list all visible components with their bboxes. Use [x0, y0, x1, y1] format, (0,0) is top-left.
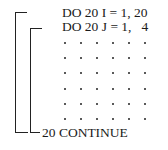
ellipsis-dot [80, 72, 82, 74]
outer-loop-bracket-bottom [15, 132, 28, 133]
ellipsis-dot [144, 72, 146, 74]
ellipsis-dot [96, 88, 98, 90]
ellipsis-dot [112, 57, 114, 59]
ellipsis-dot [128, 42, 130, 44]
ellipsis-dot [144, 57, 146, 59]
ellipsis-dot [144, 118, 146, 120]
ellipsis-dot [128, 118, 130, 120]
ellipsis-dot [128, 103, 130, 105]
ellipsis-dot [64, 57, 66, 59]
ellipsis-dot [128, 72, 130, 74]
ellipsis-dot [64, 118, 66, 120]
outer-loop-bracket [15, 12, 27, 133]
ellipsis-dot [112, 88, 114, 90]
ellipsis-dot [112, 72, 114, 74]
continue-statement: 20 CONTINUE [42, 126, 128, 140]
ellipsis-dot [112, 42, 114, 44]
ellipsis-dot [80, 42, 82, 44]
ellipsis-dot [96, 72, 98, 74]
ellipsis-dot [112, 103, 114, 105]
ellipsis-dot [96, 118, 98, 120]
ellipsis-dot [64, 88, 66, 90]
ellipsis-dot [80, 88, 82, 90]
ellipsis-dot [64, 42, 66, 44]
ellipsis-dot [80, 57, 82, 59]
ellipsis-dot [80, 118, 82, 120]
ellipsis-dot [64, 72, 66, 74]
ellipsis-dot [144, 88, 146, 90]
ellipsis-dot [96, 103, 98, 105]
ellipsis-dot [128, 88, 130, 90]
ellipsis-dot [144, 42, 146, 44]
ellipsis-dot [112, 118, 114, 120]
inner-loop-bracket-bottom [30, 132, 40, 133]
ellipsis-dot [128, 57, 130, 59]
ellipsis-dot [64, 103, 66, 105]
inner-loop-bracket [30, 28, 42, 133]
ellipsis-dot [144, 103, 146, 105]
do-statement-outer: DO 20 I = 1, 20 [62, 6, 148, 20]
do-statement-inner: DO 20 J = 1, 4 [62, 20, 148, 34]
ellipsis-dot [96, 42, 98, 44]
ellipsis-dot [96, 57, 98, 59]
ellipsis-dot [80, 103, 82, 105]
